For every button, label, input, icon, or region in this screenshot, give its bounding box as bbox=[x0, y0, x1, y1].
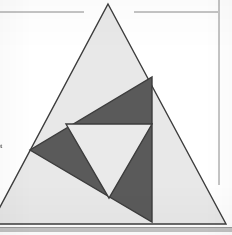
page-bottom-band bbox=[0, 228, 232, 232]
nested-triangles-figure bbox=[0, 0, 232, 235]
left-margin-clipped-text: t bbox=[0, 143, 7, 150]
scanned-page: t bbox=[0, 0, 232, 235]
